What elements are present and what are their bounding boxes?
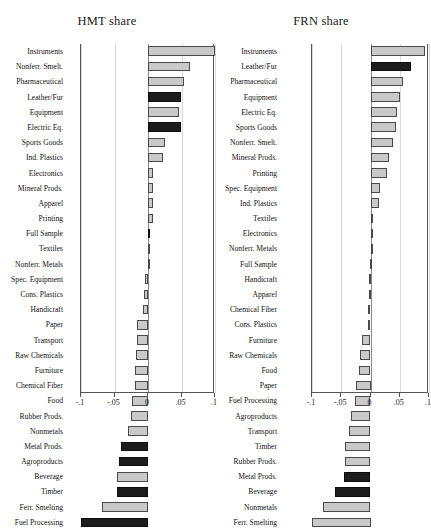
bar-row bbox=[81, 150, 213, 165]
bar-row bbox=[81, 257, 213, 272]
plot-area-hmt bbox=[80, 44, 214, 393]
category-label: Ind. Plastics bbox=[0, 150, 66, 165]
tick-label: .05 bbox=[394, 398, 404, 407]
bar-row bbox=[81, 59, 213, 74]
bar-row bbox=[312, 211, 427, 226]
tick-label: -.1 bbox=[307, 398, 316, 407]
bar-row bbox=[81, 515, 213, 530]
bar bbox=[371, 183, 380, 193]
bar bbox=[117, 487, 148, 497]
bar bbox=[81, 518, 148, 528]
bar-row bbox=[312, 90, 427, 105]
category-label: Cons. Plastics bbox=[214, 317, 280, 332]
bar-row bbox=[81, 318, 213, 333]
bar bbox=[360, 350, 371, 360]
bar-row bbox=[312, 59, 427, 74]
bar bbox=[148, 198, 153, 208]
category-label: Leather/Fur bbox=[214, 59, 280, 74]
bar bbox=[349, 426, 371, 436]
bar bbox=[371, 198, 379, 208]
x-axis-ticks-frn: -.1-.050.05.1 bbox=[311, 393, 428, 403]
bar bbox=[371, 107, 397, 117]
category-label: Fuel Processing bbox=[0, 515, 66, 530]
category-label: Textiles bbox=[0, 241, 66, 256]
bar-row bbox=[312, 196, 427, 211]
bar-row bbox=[312, 470, 427, 485]
bar bbox=[148, 92, 181, 102]
bar bbox=[370, 259, 372, 269]
bar-row bbox=[312, 105, 427, 120]
category-label: Furniture bbox=[0, 363, 66, 378]
category-label: Apparel bbox=[214, 287, 280, 302]
bar-row bbox=[312, 120, 427, 135]
bar bbox=[368, 305, 370, 315]
category-label: Electric Eq. bbox=[0, 120, 66, 135]
tick-mark bbox=[80, 393, 81, 397]
panel-title-hmt: HMT share bbox=[0, 14, 214, 29]
category-label: Full Sample bbox=[214, 257, 280, 272]
category-label: Apparel bbox=[0, 196, 66, 211]
bar bbox=[148, 138, 165, 148]
bar bbox=[371, 122, 396, 132]
category-label: Pharmaceutical bbox=[0, 74, 66, 89]
category-label: Nonferr. Smelt. bbox=[0, 59, 66, 74]
bar-row bbox=[81, 196, 213, 211]
bar-row bbox=[312, 318, 427, 333]
tick-label: 0 bbox=[145, 398, 149, 407]
bar bbox=[131, 411, 148, 421]
bar bbox=[144, 290, 148, 300]
bar-row bbox=[312, 333, 427, 348]
bar bbox=[335, 487, 370, 497]
bar bbox=[344, 472, 371, 482]
category-label: Raw Chemicals bbox=[214, 348, 280, 363]
bar-row bbox=[81, 105, 213, 120]
bar-row bbox=[81, 424, 213, 439]
bar bbox=[362, 335, 370, 345]
bar bbox=[368, 320, 371, 330]
bar-row bbox=[81, 287, 213, 302]
gridline bbox=[429, 44, 430, 393]
bar-row bbox=[312, 348, 427, 363]
category-label: Spec. Equipment bbox=[0, 272, 66, 287]
bar-row bbox=[312, 181, 427, 196]
bar bbox=[148, 229, 150, 239]
category-label: Mineral Prods. bbox=[0, 181, 66, 196]
bar-row bbox=[312, 272, 427, 287]
bar bbox=[371, 214, 373, 224]
category-label: Instruments bbox=[214, 44, 280, 59]
bar bbox=[148, 244, 150, 254]
bar-row bbox=[81, 242, 213, 257]
bar-row bbox=[312, 166, 427, 181]
tick-label: 0 bbox=[368, 398, 372, 407]
category-label: Pharmaceutical bbox=[214, 74, 280, 89]
tick-label: .1 bbox=[425, 398, 431, 407]
bar-row bbox=[81, 181, 213, 196]
bar bbox=[121, 442, 148, 452]
category-label: Paper bbox=[0, 317, 66, 332]
tick-label: .05 bbox=[176, 398, 186, 407]
category-label: Metal Prods. bbox=[214, 469, 280, 484]
category-label: Sports Goods bbox=[214, 120, 280, 135]
bar bbox=[371, 229, 373, 239]
category-label: Nonmetals bbox=[0, 424, 66, 439]
bar-row bbox=[312, 424, 427, 439]
bar-row bbox=[81, 454, 213, 469]
bar bbox=[371, 153, 390, 163]
category-labels-hmt: InstrumentsNonferr. Smelt.Pharmaceutical… bbox=[0, 44, 66, 530]
category-label: Mineral Prods. bbox=[214, 150, 280, 165]
bar bbox=[148, 168, 153, 178]
bar-row bbox=[81, 333, 213, 348]
bar bbox=[148, 122, 181, 132]
category-label: Equipment bbox=[0, 105, 66, 120]
bar bbox=[137, 335, 148, 345]
bar-row bbox=[312, 485, 427, 500]
bar-rows-hmt bbox=[81, 44, 213, 393]
category-label: Nonferr. Smelt. bbox=[214, 135, 280, 150]
bar bbox=[356, 381, 371, 391]
category-label: Electric Eq. bbox=[214, 105, 280, 120]
bar bbox=[371, 77, 403, 87]
bar bbox=[135, 381, 148, 391]
bar bbox=[369, 290, 371, 300]
bar bbox=[371, 62, 412, 72]
bar bbox=[371, 244, 373, 254]
